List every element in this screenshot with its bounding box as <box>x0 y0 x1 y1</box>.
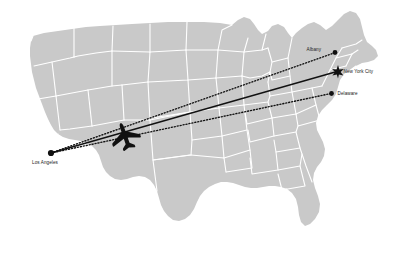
city-label-new-york: New York City <box>344 70 374 75</box>
route-map-figure: Albany New York City Delaware Los Angele… <box>0 0 398 262</box>
map-canvas <box>0 0 398 262</box>
marker-delaware[interactable] <box>329 91 334 96</box>
city-label-delaware: Delaware <box>338 92 358 97</box>
us-outline <box>30 11 378 226</box>
marker-los-angeles[interactable] <box>48 150 54 156</box>
marker-albany[interactable] <box>333 50 338 55</box>
us-landmass <box>30 11 378 226</box>
city-label-los-angeles: Los Angeles <box>32 161 58 166</box>
city-label-albany: Albany <box>307 48 322 53</box>
